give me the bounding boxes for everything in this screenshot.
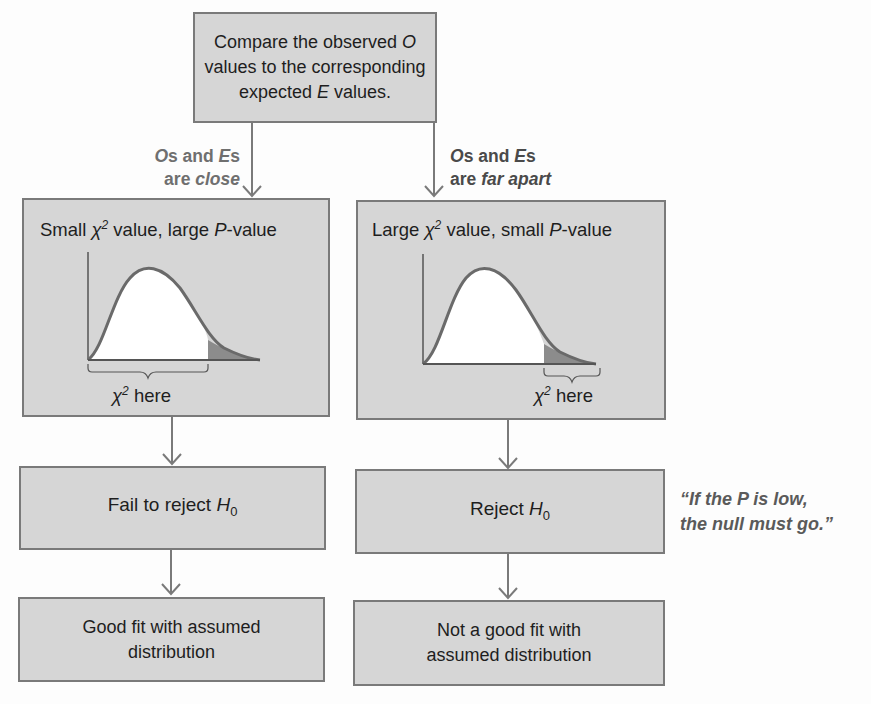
large-chi-square-title: Large χ2 value, small P-value [372, 218, 612, 241]
good-fit-box: Good fit with assumed distribution [18, 597, 325, 682]
reject-box: Reject H0 [355, 469, 665, 554]
branch-label-far-apart: Os and Es are far apart [450, 145, 590, 191]
compare-line2: values to the corresponding [204, 55, 425, 80]
expected-var: E [317, 82, 329, 102]
compare-box: Compare the observed O values to the cor… [193, 12, 437, 123]
fail-to-reject-box: Fail to reject H0 [19, 466, 326, 550]
values-word: values. [334, 82, 391, 102]
compare-line1: Compare the observed [214, 32, 397, 52]
expected-word: expected [239, 82, 312, 102]
branch-label-close: Os and Es are close [120, 145, 240, 191]
mnemonic-quote: “If the P is low, the null must go.” [680, 487, 833, 537]
observed-var: O [402, 32, 416, 52]
small-brace-label: χ2 here [112, 384, 171, 407]
chi-symbol: χ2 [91, 219, 108, 240]
not-good-fit-box: Not a good fit with assumed distribution [353, 600, 665, 686]
chi-symbol: χ2 [424, 219, 441, 240]
large-brace-label: χ2 here [534, 384, 593, 407]
small-chi-square-title: Small χ2 value, large P-value [40, 218, 277, 241]
